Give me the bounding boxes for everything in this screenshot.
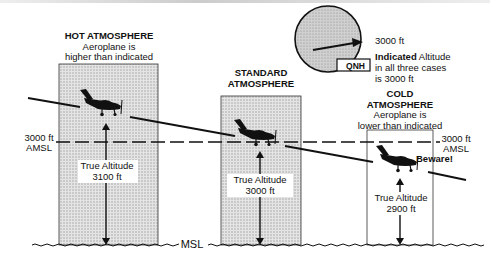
right-amsl-label: 3000 ft AMSL — [438, 134, 474, 154]
standard-true-altitude: True Altitude 3000 ft — [227, 175, 293, 196]
gauge-reading: 3000 ft — [375, 36, 404, 47]
left-amsl-label: 3000 ft AMSL — [22, 133, 56, 153]
hot-atmosphere-header: HOT ATMOSPHERE Aeroplane is higher than … — [53, 31, 165, 63]
cold-atmosphere-header: COLD ATMOSPHERE Aeroplane is lower than … — [350, 89, 450, 131]
hot-atmosphere-box — [59, 64, 158, 245]
cold-true-altitude: True Altitude 2900 ft — [370, 193, 432, 214]
beware-warning: Beware! — [416, 154, 453, 165]
indicated-altitude-note: Indicated Altitude in all three cases is… — [375, 51, 451, 84]
altimeter-temperature-diagram: QNH 3000 ft Indicated Altitude in all th… — [0, 0, 490, 265]
standard-atmosphere-box — [221, 96, 301, 245]
msl-label: MSL — [179, 239, 205, 250]
qnh-label: QNH — [341, 61, 370, 72]
hot-true-altitude: True Altitude 3100 ft — [76, 161, 138, 182]
standard-atmosphere-header: STANDARD ATMOSPHERE — [215, 68, 307, 89]
